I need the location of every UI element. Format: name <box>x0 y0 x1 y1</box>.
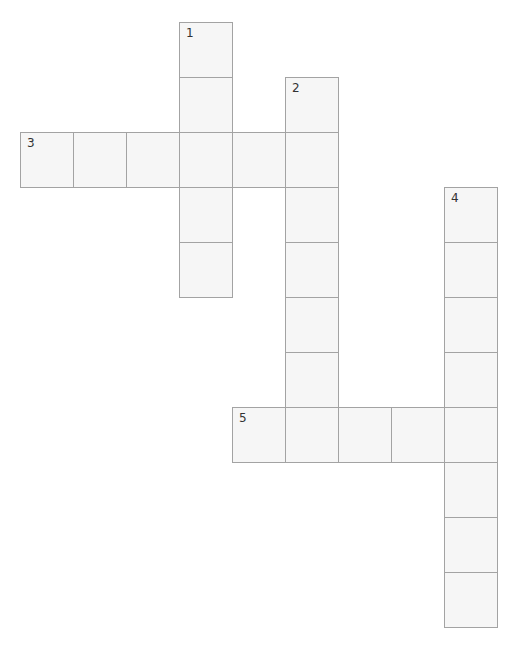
cell-letter-input[interactable] <box>286 133 338 187</box>
cell-letter-input[interactable] <box>445 298 497 352</box>
crossword-cell[interactable] <box>285 352 339 408</box>
cell-letter-input[interactable] <box>445 573 497 627</box>
cell-letter-input[interactable] <box>445 243 497 297</box>
cell-letter-input[interactable] <box>21 133 73 187</box>
cell-letter-input[interactable] <box>445 353 497 407</box>
cell-letter-input[interactable] <box>127 133 179 187</box>
cell-letter-input[interactable] <box>445 408 497 462</box>
crossword-cell[interactable] <box>444 572 498 628</box>
cell-letter-input[interactable] <box>233 408 285 462</box>
crossword-cell[interactable] <box>444 517 498 573</box>
crossword-cell[interactable] <box>126 132 180 188</box>
cell-letter-input[interactable] <box>286 298 338 352</box>
crossword-cell[interactable] <box>285 407 339 463</box>
crossword-cell[interactable] <box>444 462 498 518</box>
crossword-cell[interactable]: 3 <box>20 132 74 188</box>
cell-letter-input[interactable] <box>180 78 232 132</box>
cell-letter-input[interactable] <box>286 188 338 242</box>
crossword-cell[interactable]: 5 <box>232 407 286 463</box>
cell-letter-input[interactable] <box>180 188 232 242</box>
crossword-cell[interactable] <box>444 352 498 408</box>
crossword-cell[interactable] <box>444 297 498 353</box>
crossword-cell[interactable] <box>444 407 498 463</box>
crossword-cell[interactable] <box>285 132 339 188</box>
crossword-cell[interactable] <box>232 132 286 188</box>
cell-letter-input[interactable] <box>286 78 338 132</box>
crossword-cell[interactable] <box>391 407 445 463</box>
cell-letter-input[interactable] <box>445 518 497 572</box>
cell-letter-input[interactable] <box>74 133 126 187</box>
cell-letter-input[interactable] <box>233 133 285 187</box>
crossword-grid: 12345 <box>0 0 516 648</box>
cell-letter-input[interactable] <box>445 188 497 242</box>
cell-letter-input[interactable] <box>180 243 232 297</box>
cell-letter-input[interactable] <box>445 463 497 517</box>
crossword-cell[interactable] <box>338 407 392 463</box>
crossword-cell[interactable] <box>73 132 127 188</box>
crossword-cell[interactable] <box>179 77 233 133</box>
cell-letter-input[interactable] <box>392 408 444 462</box>
crossword-cell[interactable] <box>179 242 233 298</box>
cell-letter-input[interactable] <box>180 133 232 187</box>
crossword-cell[interactable] <box>179 187 233 243</box>
crossword-cell[interactable] <box>285 187 339 243</box>
cell-letter-input[interactable] <box>339 408 391 462</box>
crossword-cell[interactable]: 1 <box>179 22 233 78</box>
crossword-cell[interactable] <box>285 297 339 353</box>
crossword-cell[interactable] <box>444 242 498 298</box>
crossword-cell[interactable] <box>179 132 233 188</box>
cell-letter-input[interactable] <box>286 408 338 462</box>
cell-letter-input[interactable] <box>286 243 338 297</box>
cell-letter-input[interactable] <box>180 23 232 77</box>
crossword-cell[interactable]: 4 <box>444 187 498 243</box>
crossword-cell[interactable] <box>285 242 339 298</box>
cell-letter-input[interactable] <box>286 353 338 407</box>
crossword-cell[interactable]: 2 <box>285 77 339 133</box>
